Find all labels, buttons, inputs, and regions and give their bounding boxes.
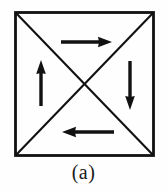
arrow-bottom-left: [62, 127, 114, 137]
arrow-right-down-head: [125, 96, 135, 110]
arrow-right-down: [125, 61, 135, 110]
arrow-top-right-head: [98, 37, 112, 47]
figure-panel: (a): [0, 0, 167, 193]
arrow-top-right: [61, 37, 112, 47]
arrow-left-up: [36, 60, 46, 106]
figure-caption: (a): [0, 160, 167, 184]
arrow-bottom-left-head: [62, 127, 76, 137]
arrow-left-up-head: [36, 60, 46, 74]
